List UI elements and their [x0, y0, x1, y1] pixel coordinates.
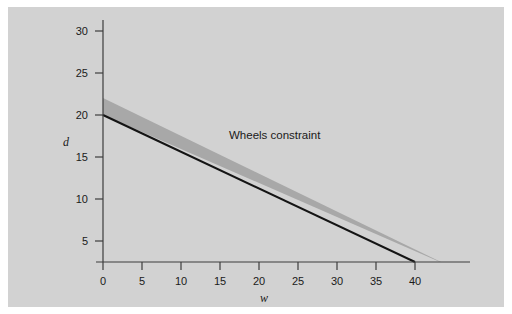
x-axis-title: w — [260, 291, 268, 305]
wheels-constraint-band — [103, 98, 441, 262]
x-tick-label-35: 35 — [370, 275, 382, 287]
y-tick-label-5: 5 — [82, 235, 88, 247]
chart-canvas: 30 25 20 15 10 5 0 5 10 15 20 25 30 35 4… — [0, 0, 512, 314]
y-tick-label-25: 25 — [76, 67, 88, 79]
x-tick-label-5: 5 — [139, 275, 145, 287]
chart-figure: 30 25 20 15 10 5 0 5 10 15 20 25 30 35 4… — [0, 0, 512, 314]
x-tick-label-15: 15 — [214, 275, 226, 287]
y-tick-label-20: 20 — [76, 109, 88, 121]
x-tick-label-25: 25 — [292, 275, 304, 287]
y-tick-label-15: 15 — [76, 151, 88, 163]
y-tick-label-10: 10 — [76, 193, 88, 205]
x-tick-label-30: 30 — [331, 275, 343, 287]
x-tick-label-10: 10 — [175, 275, 187, 287]
y-tick-label-30: 30 — [76, 25, 88, 37]
x-tick-label-40: 40 — [409, 275, 421, 287]
y-axis-title: d — [63, 135, 70, 149]
x-tick-label-20: 20 — [253, 275, 265, 287]
x-tick-label-0: 0 — [100, 275, 106, 287]
wheels-constraint-annotation: Wheels constraint — [229, 129, 321, 141]
